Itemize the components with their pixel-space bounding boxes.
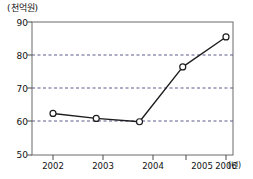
data-point-2005 — [180, 64, 186, 70]
data-point-2003 — [93, 115, 99, 121]
line-chart: (천억원) 90 80 70 60 50 2002 2003 2004 2005… — [0, 0, 253, 179]
data-point-2002 — [50, 110, 56, 116]
series-line — [53, 37, 226, 122]
x-axis-ticks — [53, 155, 226, 160]
y-axis-ticks — [27, 22, 32, 155]
data-point-2004 — [137, 119, 143, 125]
plot-canvas — [0, 0, 253, 179]
data-series — [50, 34, 229, 125]
gridlines — [32, 55, 233, 121]
data-point-2006 — [223, 34, 229, 40]
series-markers — [50, 34, 229, 125]
